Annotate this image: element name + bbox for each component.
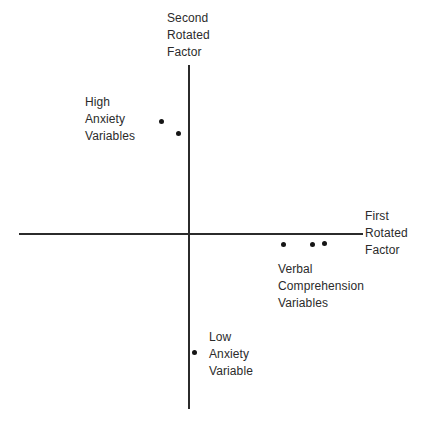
- vertical-axis-label-line-2: Rotated: [167, 27, 210, 44]
- horizontal-axis-label-line-2: Rotated: [365, 225, 408, 242]
- vertical-axis-label-line-1: Second: [167, 10, 210, 27]
- data-point-verbal-comprehension: [322, 241, 327, 246]
- annotation-low-anxiety-line-2: Anxiety: [209, 346, 253, 363]
- annotation-high-anxiety-line-2: Anxiety: [85, 111, 135, 128]
- annotation-low-anxiety-variable: Low Anxiety Variable: [209, 329, 253, 380]
- annotation-low-anxiety-line-1: Low: [209, 329, 253, 346]
- horizontal-axis-label-line-3: Factor: [365, 242, 408, 259]
- horizontal-axis-label-line-1: First: [365, 208, 408, 225]
- annotation-high-anxiety-line-1: High: [85, 94, 135, 111]
- annotation-verbal-comprehension-line-1: Verbal: [278, 261, 364, 278]
- data-point-verbal-comprehension: [281, 242, 286, 247]
- data-point-high-anxiety: [176, 131, 181, 136]
- annotation-low-anxiety-line-3: Variable: [209, 363, 253, 380]
- data-point-high-anxiety: [159, 119, 164, 124]
- annotation-verbal-comprehension-line-3: Variables: [278, 295, 364, 312]
- vertical-axis-line: [188, 65, 190, 409]
- annotation-verbal-comprehension-variables: Verbal Comprehension Variables: [278, 261, 364, 312]
- annotation-high-anxiety-variables: High Anxiety Variables: [85, 94, 135, 145]
- vertical-axis-label-line-3: Factor: [167, 44, 210, 61]
- data-point-low-anxiety: [192, 350, 197, 355]
- horizontal-axis-label: First Rotated Factor: [365, 208, 408, 259]
- annotation-verbal-comprehension-line-2: Comprehension: [278, 278, 364, 295]
- annotation-high-anxiety-line-3: Variables: [85, 128, 135, 145]
- vertical-axis-label: Second Rotated Factor: [167, 10, 210, 61]
- horizontal-axis-line: [19, 233, 363, 235]
- rotated-factor-plot: Second Rotated Factor First Rotated Fact…: [0, 0, 430, 423]
- data-point-verbal-comprehension: [310, 242, 315, 247]
